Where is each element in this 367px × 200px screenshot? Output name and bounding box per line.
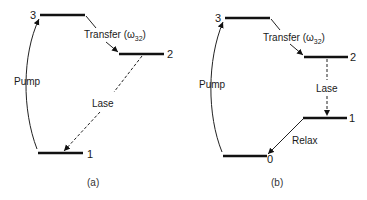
transfer-arrow [106,42,118,52]
level-1-label: 1 [349,112,355,124]
level-2-label: 2 [350,51,356,63]
transfer-label: Transfer (ω32) [84,29,146,42]
lase-line-upper [114,56,142,92]
panel-a-three-level: 3 2 1 Pump Transfer (ω32) Lase (a) [14,9,173,188]
pump-label: Pump [14,76,41,87]
lase-arrow [64,112,100,151]
transfer-label: Transfer (ω32) [263,32,325,45]
caption-a: (a) [87,177,99,188]
pump-label: Pump [199,79,226,90]
laser-level-diagram: 3 2 1 Pump Transfer (ω32) Lase (a) 3 2 1… [0,0,367,200]
level-3-label: 3 [215,12,221,24]
level-0-label: 0 [267,153,273,165]
caption-b: (b) [271,177,283,188]
level-3-label: 3 [30,9,36,21]
panel-b-four-level: 3 2 1 0 Pump Transfer (ω32) Lase Relax (… [199,12,356,188]
transfer-line-top [271,19,280,30]
relax-label: Relax [292,135,318,146]
lase-label: Lase [92,98,114,109]
transfer-arrow [290,44,303,55]
transfer-line-top [86,16,96,28]
level-2-label: 2 [167,48,173,60]
level-1-label: 1 [87,148,93,160]
lase-label: Lase [316,83,338,94]
